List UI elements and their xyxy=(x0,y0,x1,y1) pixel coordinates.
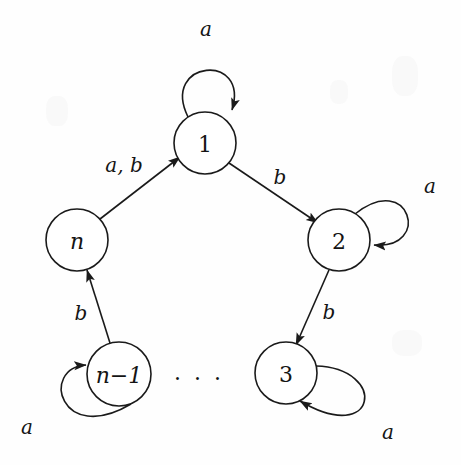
transition-n-to-1-label: a, b xyxy=(105,153,142,177)
self-loop-state-1-path xyxy=(183,70,235,117)
state-2-label: 2 xyxy=(332,229,346,254)
transition-1-to-2-label: b xyxy=(274,165,287,189)
transition-n-to-1: a, b xyxy=(100,153,180,219)
state-node-n-1[interactable]: n−1 xyxy=(87,342,151,406)
transition-1-to-2: b xyxy=(229,163,318,223)
self-loop-state-n-1-label: a xyxy=(21,415,33,439)
transition-n-1-to-n: b xyxy=(75,270,110,343)
state-3-label: 3 xyxy=(279,362,293,387)
state-n-1-label: n−1 xyxy=(96,363,143,388)
self-loop-state-3-label: a xyxy=(382,420,394,444)
transition-2-to-3: b xyxy=(296,270,335,345)
state-1-label: 1 xyxy=(198,132,212,157)
automaton-svg: a a a a a, b b b xyxy=(0,0,461,465)
transition-2-to-3-label: b xyxy=(323,300,336,324)
ellipsis-annotation: · · · xyxy=(174,366,224,391)
self-loop-state-1-label: a xyxy=(200,17,212,41)
self-loop-state-2-label: a xyxy=(424,174,436,198)
transition-n-1-to-n-path xyxy=(87,270,110,343)
state-node-3[interactable]: 3 xyxy=(255,342,317,404)
state-n-label: n xyxy=(70,229,84,254)
state-node-2[interactable]: 2 xyxy=(308,209,370,271)
self-loop-state-1: a xyxy=(183,17,235,117)
state-node-1[interactable]: 1 xyxy=(174,112,236,174)
transition-n-1-to-n-label: b xyxy=(75,301,88,325)
state-node-n[interactable]: n xyxy=(46,209,108,271)
automaton-diagram-canvas: a a a a a, b b b xyxy=(0,0,461,465)
